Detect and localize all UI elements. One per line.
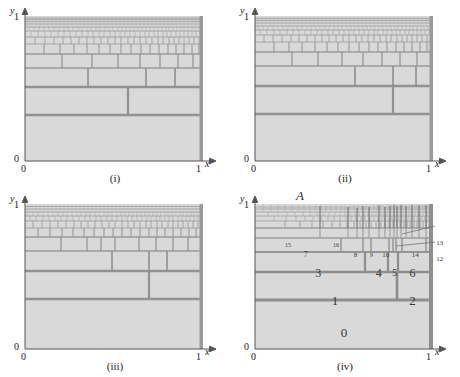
region-label-2: 2 <box>409 294 416 307</box>
region-label-5: 5 <box>392 268 397 278</box>
panel-iii-y-max-tick: 1 <box>14 199 19 210</box>
region-label-8: 8 <box>354 252 358 259</box>
panel-i-y-min-tick: 0 <box>14 153 19 164</box>
panel-i-y-max-tick: 1 <box>14 11 19 22</box>
region-label-15: 15 <box>285 242 291 248</box>
panel-ii-plot <box>230 0 460 189</box>
panel-iv: y 1 0 0 1 x (iv) A 012345678910141516 13… <box>230 188 460 377</box>
region-label-4: 4 <box>376 267 382 279</box>
panel-iii: y 1 0 0 1 x (iii) <box>0 188 230 377</box>
panel-ii-y-min-tick: 0 <box>244 153 249 164</box>
region-label-1: 1 <box>332 294 339 307</box>
region-label-16: 16 <box>333 242 339 248</box>
panel-ii: y 1 0 0 1 x (ii) <box>230 0 460 189</box>
panel-i-x-axis-label: x <box>205 158 209 169</box>
panel-iii-x-axis-label: x <box>205 346 209 357</box>
region-label-10: 10 <box>382 252 389 259</box>
callout-label-12: 12 <box>436 255 443 263</box>
region-label-0: 0 <box>341 326 348 339</box>
panel-ii-y-max-tick: 1 <box>244 11 249 22</box>
point-a-label: A <box>296 188 304 204</box>
region-label-14: 14 <box>412 252 419 259</box>
panel-iv-caption: (iv) <box>230 360 460 372</box>
panel-i-plot <box>0 0 230 189</box>
region-label-3: 3 <box>315 267 321 279</box>
callout-label-13: 13 <box>436 239 443 247</box>
panel-iv-y-max-tick: 1 <box>244 199 249 210</box>
region-label-7: 7 <box>304 251 308 259</box>
panel-i: y 1 0 0 1 x (i) <box>0 0 230 189</box>
figure-panel-grid: y 1 0 0 1 x (i) <box>0 0 460 377</box>
panel-i-caption: (i) <box>0 172 230 184</box>
panel-iv-plot <box>230 188 460 377</box>
panel-iii-y-min-tick: 0 <box>14 341 19 352</box>
panel-ii-x-axis-label: x <box>435 158 439 169</box>
region-label-9: 9 <box>370 252 373 258</box>
panel-iii-plot <box>0 188 230 377</box>
panel-iii-caption: (iii) <box>0 360 230 372</box>
panel-iv-x-axis-label: x <box>435 346 439 357</box>
panel-ii-caption: (ii) <box>230 172 460 184</box>
panel-iv-y-min-tick: 0 <box>244 341 249 352</box>
region-label-6: 6 <box>410 267 416 279</box>
